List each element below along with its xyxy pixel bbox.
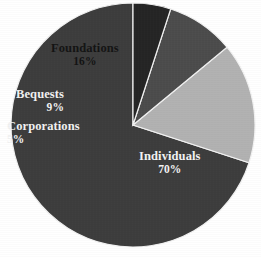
pie-chart-figure: Individuals 70% Foundations 16% Bequests… bbox=[0, 0, 261, 257]
slice-label-bequests: Bequests 9% bbox=[16, 88, 64, 113]
slice-label-corporations-name: Corporations bbox=[7, 120, 80, 133]
slice-label-foundations-name: Foundations bbox=[51, 42, 119, 55]
slice-label-individuals-value: 70% bbox=[139, 164, 201, 176]
slice-label-bequests-value: 9% bbox=[16, 102, 64, 114]
slice-label-bequests-name: Bequests bbox=[16, 88, 64, 101]
slice-label-individuals: Individuals 70% bbox=[139, 150, 201, 175]
slice-label-corporations-value: 5% bbox=[7, 134, 80, 146]
slice-label-foundations: Foundations 16% bbox=[51, 42, 119, 67]
slice-label-foundations-value: 16% bbox=[51, 56, 119, 68]
slice-label-corporations: Corporations 5% bbox=[7, 120, 80, 145]
slice-label-individuals-name: Individuals bbox=[139, 150, 201, 163]
